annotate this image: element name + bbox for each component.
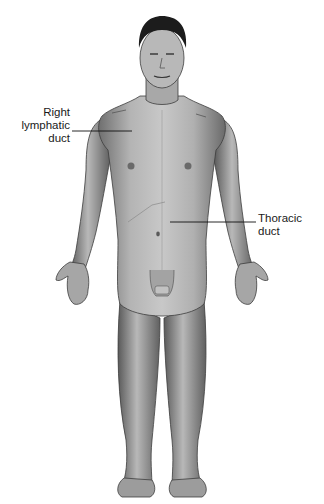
torso: [99, 96, 226, 316]
label-line: duct: [14, 132, 70, 145]
label-thoracic-duct: Thoracic duct: [258, 212, 318, 238]
label-right-lymphatic-duct: Right lymphatic duct: [14, 106, 70, 145]
legs: [118, 300, 207, 497]
label-line: Right: [14, 106, 70, 119]
head: [139, 16, 186, 105]
label-line: lymphatic: [14, 119, 70, 132]
navel: [156, 232, 160, 237]
label-line: duct: [258, 225, 318, 238]
nipple-left: [128, 163, 135, 170]
nipple-right: [185, 163, 192, 170]
human-body-illustration: [0, 0, 324, 504]
label-line: Thoracic: [258, 212, 318, 225]
anatomy-figure: Right lymphatic duct Thoracic duct: [0, 0, 324, 504]
